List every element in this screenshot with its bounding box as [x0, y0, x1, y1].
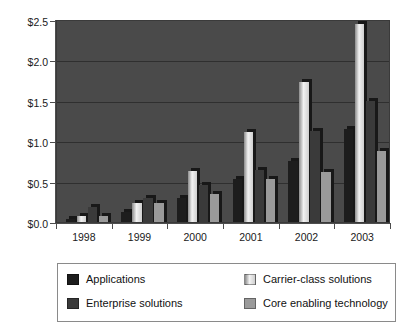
y-tick-label: $0.0	[2, 219, 48, 229]
legend-swatch-core-icon	[244, 298, 256, 309]
bar-2001-enterprise-solutions	[244, 132, 254, 222]
gridline	[57, 102, 389, 103]
bar-2000-carrier-class-solutions	[199, 185, 209, 222]
bar-2001-core-enabling-technology	[266, 179, 276, 222]
bar-2000-applications	[177, 198, 187, 222]
gridline	[57, 142, 389, 143]
bar-1998-applications	[66, 219, 76, 222]
bar-2001-applications	[233, 179, 243, 222]
y-tick-label: $2.5	[2, 17, 48, 27]
legend-swatch-enterprise-icon	[67, 298, 79, 309]
bar-2003-core-enabling-technology	[377, 151, 387, 222]
bar-2003-enterprise-solutions	[355, 24, 365, 222]
x-tick-label: 2001	[223, 231, 279, 243]
plot-area	[56, 20, 390, 223]
bar-2002-carrier-class-solutions	[310, 131, 320, 222]
x-tick-mark	[167, 224, 168, 229]
plot-wrap	[56, 20, 390, 223]
legend-label: Core enabling technology	[263, 297, 388, 309]
bar-1998-enterprise-solutions	[77, 216, 87, 222]
bar-2002-core-enabling-technology	[321, 172, 331, 222]
legend-item-applications: Applications	[67, 273, 145, 285]
bar-2003-applications	[344, 129, 354, 222]
gridline	[57, 183, 389, 184]
y-tick-label: $2.0	[2, 57, 48, 67]
bar-2003-carrier-class-solutions	[366, 101, 376, 222]
legend-swatch-carrier-icon	[244, 274, 256, 285]
gridline	[57, 61, 389, 62]
bar-1999-carrier-class-solutions	[143, 198, 153, 222]
bar-chart-figure: $2.5 $2.0 $1.5 $1.0 $0.5 $0.0 1998199920…	[0, 0, 406, 329]
x-tick-mark	[223, 224, 224, 229]
bar-1998-core-enabling-technology	[99, 216, 109, 222]
bar-2001-carrier-class-solutions	[255, 170, 265, 222]
legend-label: Carrier-class solutions	[263, 273, 372, 285]
bar-1999-applications	[121, 212, 131, 222]
chart-legend: Applications Enterprise solutions Carrie…	[57, 263, 396, 322]
bar-2002-applications	[288, 161, 298, 222]
bar-1999-enterprise-solutions	[132, 203, 142, 222]
legend-item-core-enabling-technology: Core enabling technology	[244, 297, 388, 309]
x-tick-label: 1998	[56, 231, 112, 243]
x-tick-mark	[279, 224, 280, 229]
x-tick-label: 1999	[112, 231, 168, 243]
y-tick-label: $1.5	[2, 98, 48, 108]
x-tick-mark	[334, 224, 335, 229]
bar-1998-carrier-class-solutions	[88, 207, 98, 222]
y-tick-label: $1.0	[2, 138, 48, 148]
legend-item-enterprise-solutions: Enterprise solutions	[67, 297, 183, 309]
x-tick-mark	[390, 224, 391, 229]
legend-label: Enterprise solutions	[86, 297, 183, 309]
x-tick-label: 2002	[279, 231, 335, 243]
legend-label: Applications	[86, 273, 145, 285]
bar-1999-core-enabling-technology	[154, 203, 164, 222]
bar-2000-core-enabling-technology	[210, 194, 220, 222]
x-tick-label: 2000	[167, 231, 223, 243]
bar-2002-enterprise-solutions	[299, 82, 309, 222]
legend-item-carrier-class-solutions: Carrier-class solutions	[244, 273, 372, 285]
bar-2000-enterprise-solutions	[188, 171, 198, 222]
x-tick-label: 2003	[334, 231, 390, 243]
legend-swatch-applications-icon	[67, 274, 79, 285]
x-tick-mark	[112, 224, 113, 229]
x-tick-mark	[56, 224, 57, 229]
y-tick-label: $0.5	[2, 179, 48, 189]
